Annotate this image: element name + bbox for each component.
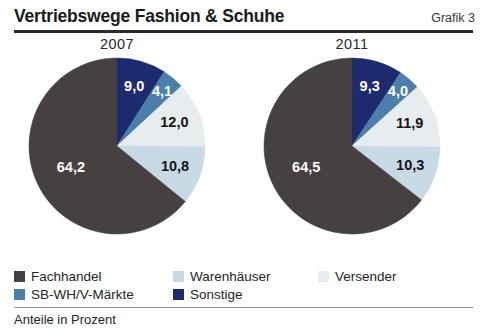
legend-label-warenhaeuser: Warenhäuser (190, 270, 271, 284)
pie-slice-value-2011-warenh-user: 10,3 (396, 157, 424, 173)
legend-item-versender: Versender (318, 270, 397, 284)
pie-slice-value-2007-sonstige: 9,0 (124, 78, 144, 94)
legend-item-sb-wh-v-maerkte: SB-WH/V-Märkte (14, 288, 134, 302)
chart-page: Vertriebswege Fashion & Schuhe Grafik 3 … (0, 0, 487, 330)
legend-swatch-sb-wh-v-maerkte (14, 289, 25, 300)
legend-swatch-versender (318, 271, 329, 282)
pie-slice-value-2011-versender: 11,9 (396, 115, 423, 131)
pie-slice-value-2007-sb-wh-v-m-rkte: 4,1 (152, 83, 172, 99)
chart-header: Vertriebswege Fashion & Schuhe Grafik 3 (0, 0, 487, 34)
footer-divider (14, 307, 473, 308)
legend-label-sonstige: Sonstige (190, 288, 243, 302)
legend-item-warenhaeuser: Warenhäuser (173, 270, 271, 284)
pie-slice-value-2007-warenh-user: 10,8 (161, 158, 189, 174)
pie-chart-2007: 2007 9,04,112,010,864,2 (17, 34, 217, 266)
pie-slice-value-2007-versender: 12,0 (160, 114, 188, 130)
legend-swatch-fachhandel (14, 271, 25, 282)
figure-number-label: Grafik 3 (431, 11, 475, 25)
pie-chart-area: 2007 9,04,112,010,864,2 2011 9,34,011,91… (0, 34, 487, 266)
pie-slice-value-2007-fachhandel: 64,2 (57, 159, 85, 175)
legend-swatch-warenhaeuser (173, 271, 184, 282)
pie-slice-value-2011-sonstige: 9,3 (360, 78, 380, 94)
footer-note: Anteile in Prozent (14, 312, 116, 327)
chart-legend: Fachhandel SB-WH/V-Märkte Warenhäuser So… (0, 268, 487, 304)
pie-year-label-2011: 2011 (252, 36, 452, 52)
legend-item-sonstige: Sonstige (173, 288, 243, 302)
pie-slice-value-2011-sb-wh-v-m-rkte: 4,0 (388, 83, 408, 99)
header-divider (14, 30, 473, 33)
legend-label-versender: Versender (335, 270, 397, 284)
legend-label-sb-wh-v-maerkte: SB-WH/V-Märkte (31, 288, 134, 302)
page-title: Vertriebswege Fashion & Schuhe (14, 6, 284, 27)
legend-label-fachhandel: Fachhandel (31, 270, 102, 284)
pie-svg-2007: 9,04,112,010,864,2 (27, 56, 207, 236)
pie-svg-2011: 9,34,011,910,364,5 (262, 56, 442, 236)
pie-slice-value-2011-fachhandel: 64,5 (292, 159, 320, 175)
legend-item-fachhandel: Fachhandel (14, 270, 102, 284)
pie-chart-2011: 2011 9,34,011,910,364,5 (252, 34, 452, 266)
legend-swatch-sonstige (173, 289, 184, 300)
pie-year-label-2007: 2007 (17, 36, 217, 52)
